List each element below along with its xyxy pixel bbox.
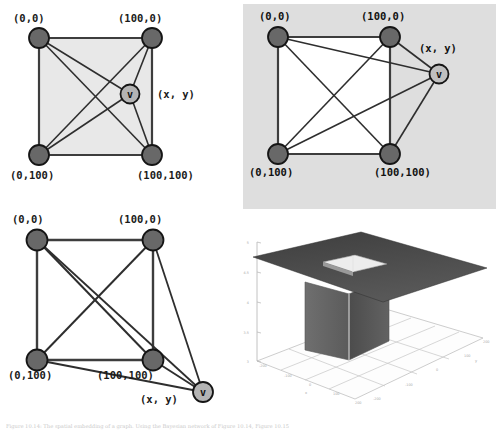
x-tick-4: 200 — [355, 401, 361, 405]
z-axis-ticks — [257, 242, 261, 362]
node-100-0-b[interactable] — [380, 27, 400, 47]
node-0-0-c[interactable] — [27, 230, 48, 251]
y-tick-2: 0 — [436, 368, 438, 372]
vertex-coord-label-c: (x, y) — [140, 394, 178, 405]
z-tick-2: 4 — [247, 301, 249, 305]
vertex-node-label-b: v — [436, 69, 442, 80]
y-axis-label: y — [475, 359, 478, 363]
vertex-coord-label-a: (x, y) — [157, 89, 195, 100]
panel-surface-plot: 5 4.5 4 3.5 3 -200 -100 0 100 200 -200 -… — [243, 214, 497, 404]
corner-label-100-100-a: (100,100) — [137, 170, 194, 181]
corner-label-100-100-c: (100,100) — [97, 370, 154, 381]
node-100-100-b[interactable] — [380, 144, 400, 164]
node-0-100-b[interactable] — [268, 144, 288, 164]
z-tick-3: 3.5 — [244, 331, 249, 335]
figure-caption: Figure 10.14: The spatial embedding of a… — [6, 424, 496, 430]
node-100-100-a[interactable] — [142, 145, 162, 165]
y-tick-1: -100 — [405, 383, 413, 387]
panel-bottom-left-graph: v (0,0) (100,0) (0,100) (100,100) (x, y) — [0, 208, 240, 408]
node-0-0-b[interactable] — [268, 27, 288, 47]
graph-b-svg: v — [243, 4, 496, 209]
node-100-0-c[interactable] — [143, 230, 164, 251]
x-tick-0: -200 — [259, 364, 267, 368]
panel-top-left-graph: v (0,0) (100,0) (0,100) (100,100) (x, y) — [0, 0, 240, 210]
vertex-node-label-c: v — [200, 387, 206, 398]
corner-label-100-100-b: (100,100) — [374, 167, 431, 178]
node-0-100-c[interactable] — [27, 350, 48, 371]
node-0-100-a[interactable] — [29, 145, 49, 165]
node-100-100-c[interactable] — [143, 350, 164, 371]
y-tick-4: 200 — [483, 340, 489, 344]
surface-plot-svg: 5 4.5 4 3.5 3 -200 -100 0 100 200 -200 -… — [243, 214, 497, 404]
vertex-coord-label-b: (x, y) — [419, 43, 457, 54]
x-tick-3: 100 — [333, 392, 339, 396]
y-tick-0: -200 — [373, 397, 381, 401]
figure-container: v (0,0) (100,0) (0,100) (100,100) (x, y) — [0, 0, 500, 436]
node-100-0-a[interactable] — [142, 28, 162, 48]
panel-top-right-graph: v (0,0) (100,0) (0,100) (100,100) (x, y) — [243, 4, 496, 209]
z-tick-1: 4.5 — [244, 271, 249, 275]
z-tick-0: 5 — [247, 241, 249, 245]
vertex-node-label-a: v — [127, 89, 133, 100]
corner-label-100-0-a: (100,0) — [118, 13, 162, 24]
corner-label-100-0-c: (100,0) — [118, 214, 162, 225]
x-tick-1: -100 — [284, 374, 292, 378]
node-0-0-a[interactable] — [29, 28, 49, 48]
surface-plateau — [253, 232, 487, 302]
corner-label-100-0-c-text: (100,0) — [118, 213, 162, 225]
x-tick-2: 0 — [309, 383, 311, 387]
corner-label-0-100-c: (0,100) — [8, 370, 52, 381]
z-tick-4: 3 — [247, 360, 249, 364]
corner-label-0-0-a: (0,0) — [13, 13, 45, 24]
corner-label-100-0-b: (100,0) — [361, 11, 405, 22]
corner-label-0-100-b: (0,100) — [249, 167, 293, 178]
y-tick-3: 100 — [464, 354, 470, 358]
corner-label-0-0-b: (0,0) — [259, 11, 291, 22]
x-axis-label: x — [305, 391, 308, 395]
corner-label-0-0-c: (0,0) — [12, 214, 44, 225]
corner-label-0-100-a: (0,100) — [10, 170, 54, 181]
